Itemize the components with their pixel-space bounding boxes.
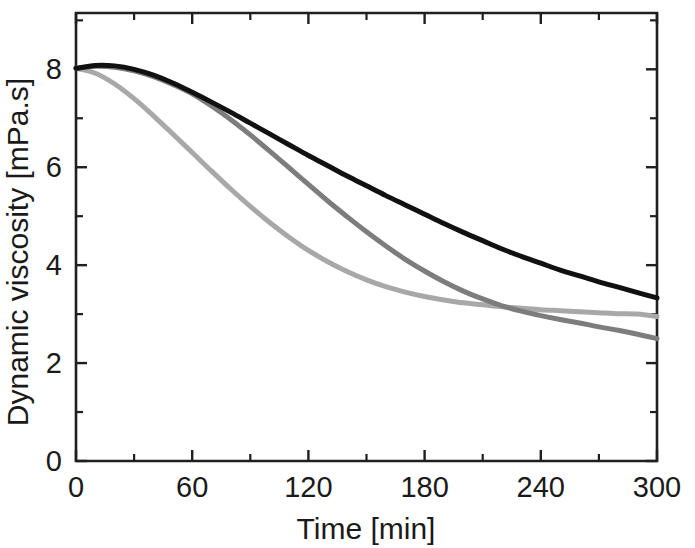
y-tick-label: 2 — [46, 347, 62, 379]
y-axis-tick-labels: 02468 — [46, 53, 62, 477]
x-axis-title: Time [min] — [297, 512, 436, 545]
x-tick-label: 0 — [68, 471, 84, 503]
y-tick-label: 6 — [46, 151, 62, 183]
y-tick-label: 8 — [46, 53, 62, 85]
x-tick-label: 180 — [400, 471, 448, 503]
y-tick-label: 0 — [46, 445, 62, 477]
chart-figure: 060120180240300 02468 Time [min] Dynamic… — [0, 0, 695, 548]
x-tick-label: 60 — [176, 471, 208, 503]
x-tick-label: 300 — [633, 471, 681, 503]
series-medium-gray-curve — [76, 66, 657, 338]
y-axis-ticks — [76, 20, 657, 461]
chart-plot-area: 060120180240300 02468 Time [min] Dynamic… — [0, 0, 695, 548]
y-tick-label: 4 — [46, 249, 62, 281]
series-light-gray-curve — [76, 68, 657, 316]
y-axis-title: Dynamic viscosity [mPa.s] — [1, 78, 34, 426]
x-tick-label: 120 — [284, 471, 332, 503]
data-series-group — [76, 65, 657, 338]
series-black-curve — [76, 65, 657, 298]
x-tick-label: 240 — [517, 471, 565, 503]
x-axis-tick-labels: 060120180240300 — [68, 471, 681, 503]
